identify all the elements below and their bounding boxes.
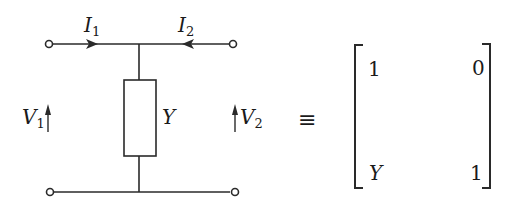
two-port-diagram: I1 I2 V1 V2 Y ≡ 1 0 Y 1 [0,0,513,210]
equivalence-symbol: ≡ [298,107,316,132]
matrix-entry-r2c2: 1 [470,161,483,185]
label-i2: I2 [177,13,194,39]
matrix-left-bracket [355,45,363,188]
shunt-admittance [124,44,156,192]
terminal-bottom-right [232,189,239,196]
label-element-y: Y [162,105,177,129]
label-v1: V1 [22,105,45,131]
label-i1: I1 [83,13,100,39]
matrix-entry-r2c1: Y [369,161,384,185]
matrix-entry-r1c2: 0 [472,56,485,80]
terminal-top-right [230,41,237,48]
label-v2: V2 [240,105,263,131]
terminal-top-left [46,41,53,48]
voltage-arrow-v2-icon [232,104,238,132]
voltage-arrow-v1-icon [45,104,51,132]
matrix-entry-r1c1: 1 [368,57,381,81]
terminal-bottom-left [47,189,54,196]
